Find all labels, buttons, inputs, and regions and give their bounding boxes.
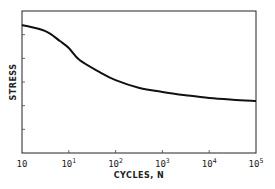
series-line-sn-curve <box>22 25 256 101</box>
y-axis-title: STRESS <box>9 63 18 100</box>
x-tick-label-5: 105 <box>249 157 264 169</box>
x-tick-label-2: 102 <box>108 157 123 169</box>
sn-chart: 10101102103104105 CYCLES, N STRESS <box>0 0 275 189</box>
x-tick-label-3: 103 <box>155 157 170 169</box>
x-tick-label-0: 10 <box>17 159 28 169</box>
x-axis-title: CYCLES, N <box>114 171 165 180</box>
plot-frame <box>22 11 256 153</box>
x-tick-label-1: 101 <box>61 157 76 169</box>
x-tick-label-4: 104 <box>202 157 217 169</box>
